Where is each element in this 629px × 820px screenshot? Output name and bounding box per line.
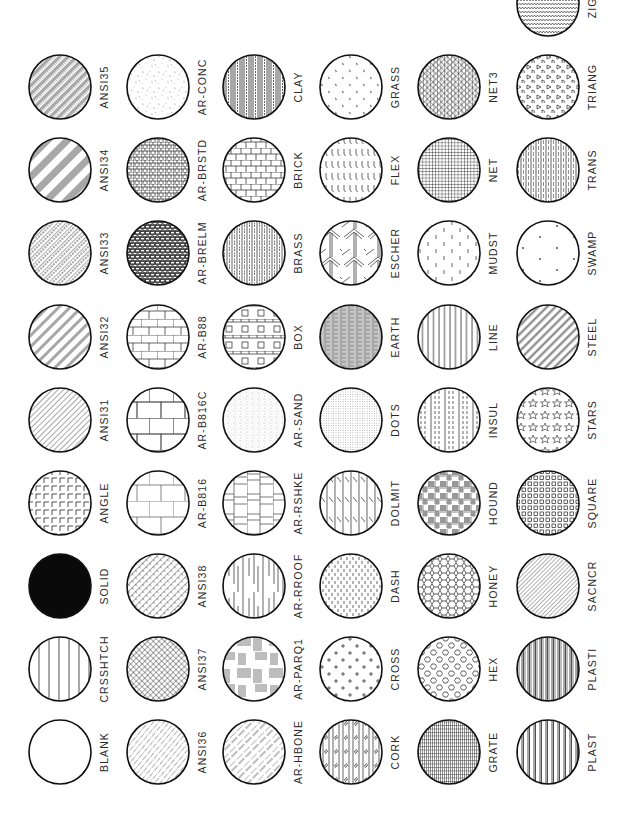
hatch-swatch-line	[416, 303, 482, 371]
hatch-swatch-dots	[318, 386, 384, 454]
hatch-swatch-triang	[515, 53, 581, 121]
hatch-swatch-swamp	[515, 219, 581, 287]
hatch-label-arrroof: AR-RROOF	[292, 554, 304, 619]
hatch-swatch-ansi33	[27, 219, 93, 287]
hatch-circle-icon	[318, 53, 384, 121]
hatch-swatch-mudst	[416, 219, 482, 287]
hatch-label-net3: NET3	[487, 71, 499, 102]
hatch-label-arhbone: AR-HBONE	[292, 720, 304, 784]
hatch-circle-icon	[27, 53, 93, 121]
hatch-swatch-arhbone	[221, 718, 287, 786]
hatch-circle-icon	[221, 635, 287, 703]
hatch-circle-icon	[416, 386, 482, 454]
hatch-swatch-arparq1	[221, 635, 287, 703]
hatch-label-arconc: AR-CONC	[196, 59, 208, 116]
hatch-circle-icon	[416, 552, 482, 620]
hatch-swatch-dolmit	[318, 469, 384, 537]
hatch-circle-icon	[27, 469, 93, 537]
hatch-circle-icon	[416, 635, 482, 703]
hatch-label-ansi36: ANSI36	[196, 731, 208, 774]
hatch-circle-icon	[125, 552, 191, 620]
hatch-swatch-ansi36	[125, 718, 191, 786]
hatch-label-crsshtch: CRSSHTCH	[98, 635, 110, 702]
hatch-circle-icon	[515, 53, 581, 121]
hatch-circle-icon	[318, 136, 384, 204]
hatch-swatch-arrroof	[221, 552, 287, 620]
hatch-circle-icon	[416, 469, 482, 537]
hatch-label-steel: STEEL	[586, 318, 598, 357]
hatch-circle-icon	[416, 303, 482, 371]
hatch-label-insul: INSUL	[487, 402, 499, 438]
hatch-label-line: LINE	[487, 323, 499, 351]
hatch-swatch-escher	[318, 219, 384, 287]
hatch-circle-icon	[515, 219, 581, 287]
hatch-label-earth: EARTH	[389, 317, 401, 358]
hatch-circle-icon	[125, 718, 191, 786]
hatch-swatch-steel	[515, 303, 581, 371]
hatch-label-arparq1: AR-PARQ1	[292, 638, 304, 700]
hatch-circle-icon	[416, 718, 482, 786]
hatch-label-ansi31: ANSI31	[98, 399, 110, 442]
hatch-circle-icon	[221, 469, 287, 537]
hatch-label-square: SQUARE	[586, 478, 598, 529]
hatch-label-box: BOX	[292, 324, 304, 349]
hatch-swatch-ansi37	[125, 635, 191, 703]
hatch-swatch-angle	[27, 469, 93, 537]
hatch-swatch-grass	[318, 53, 384, 121]
hatch-swatch-ansi34	[27, 136, 93, 204]
hatch-circle-icon	[27, 136, 93, 204]
hatch-swatch-brass	[221, 219, 287, 287]
hatch-circle-icon	[515, 136, 581, 204]
hatch-swatch-net	[416, 136, 482, 204]
hatch-label-arbrstd: AR-BRSTD	[196, 139, 208, 201]
hatch-label-arb88: AR-B88	[196, 315, 208, 358]
hatch-label-cross: CROSS	[389, 648, 401, 691]
hatch-label-zigzag: ZIGZ	[586, 0, 598, 18]
hatch-circle-icon	[27, 718, 93, 786]
hatch-swatch-flex	[318, 136, 384, 204]
hatch-circle-icon	[125, 635, 191, 703]
hatch-circle-icon	[221, 718, 287, 786]
hatch-swatch-zigzag	[515, 0, 581, 38]
hatch-label-escher: ESCHER	[389, 228, 401, 278]
hatch-circle-icon	[318, 219, 384, 287]
hatch-label-grate: GRATE	[487, 732, 499, 773]
hatch-label-swamp: SWAMP	[586, 231, 598, 276]
hatch-swatch-clay	[221, 53, 287, 121]
hatch-label-grass: GRASS	[389, 66, 401, 108]
hatch-label-plast: PLAST	[586, 733, 598, 772]
hatch-pattern-sheet: ZIGZ ANSI35 AR-CONC	[0, 0, 629, 820]
hatch-circle-icon	[125, 303, 191, 371]
hatch-swatch-dash	[318, 552, 384, 620]
hatch-label-ansi33: ANSI33	[98, 232, 110, 275]
hatch-label-ansi32: ANSI32	[98, 316, 110, 359]
hatch-swatch-honey	[416, 552, 482, 620]
hatch-swatch-arsand	[221, 386, 287, 454]
hatch-swatch-hound	[416, 469, 482, 537]
hatch-circle-icon	[318, 718, 384, 786]
hatch-swatch-ansi38	[125, 552, 191, 620]
hatch-swatch-cross	[318, 635, 384, 703]
hatch-circle-icon	[125, 469, 191, 537]
hatch-label-hound: HOUND	[487, 481, 499, 525]
hatch-circle-icon	[125, 136, 191, 204]
hatch-swatch-ansi31	[27, 386, 93, 454]
hatch-circle-icon	[318, 552, 384, 620]
hatch-circle-icon	[515, 469, 581, 537]
hatch-circle-icon	[416, 53, 482, 121]
hatch-swatch-ansi35	[27, 53, 93, 121]
hatch-swatch-blank	[27, 718, 93, 786]
hatch-label-solid: SOLID	[98, 567, 110, 604]
hatch-swatch-arbrstd	[125, 136, 191, 204]
hatch-label-flex: FLEX	[389, 155, 401, 186]
hatch-swatch-box	[221, 303, 287, 371]
hatch-circle-icon	[27, 219, 93, 287]
hatch-swatch-brick	[221, 136, 287, 204]
hatch-swatch-insul	[416, 386, 482, 454]
hatch-label-ansi34: ANSI34	[98, 149, 110, 192]
hatch-swatch-arrshke	[221, 469, 287, 537]
hatch-circle-icon	[515, 718, 581, 786]
hatch-swatch-earth	[318, 303, 384, 371]
hatch-swatch-solid	[27, 552, 93, 620]
hatch-swatch-arb88	[125, 303, 191, 371]
